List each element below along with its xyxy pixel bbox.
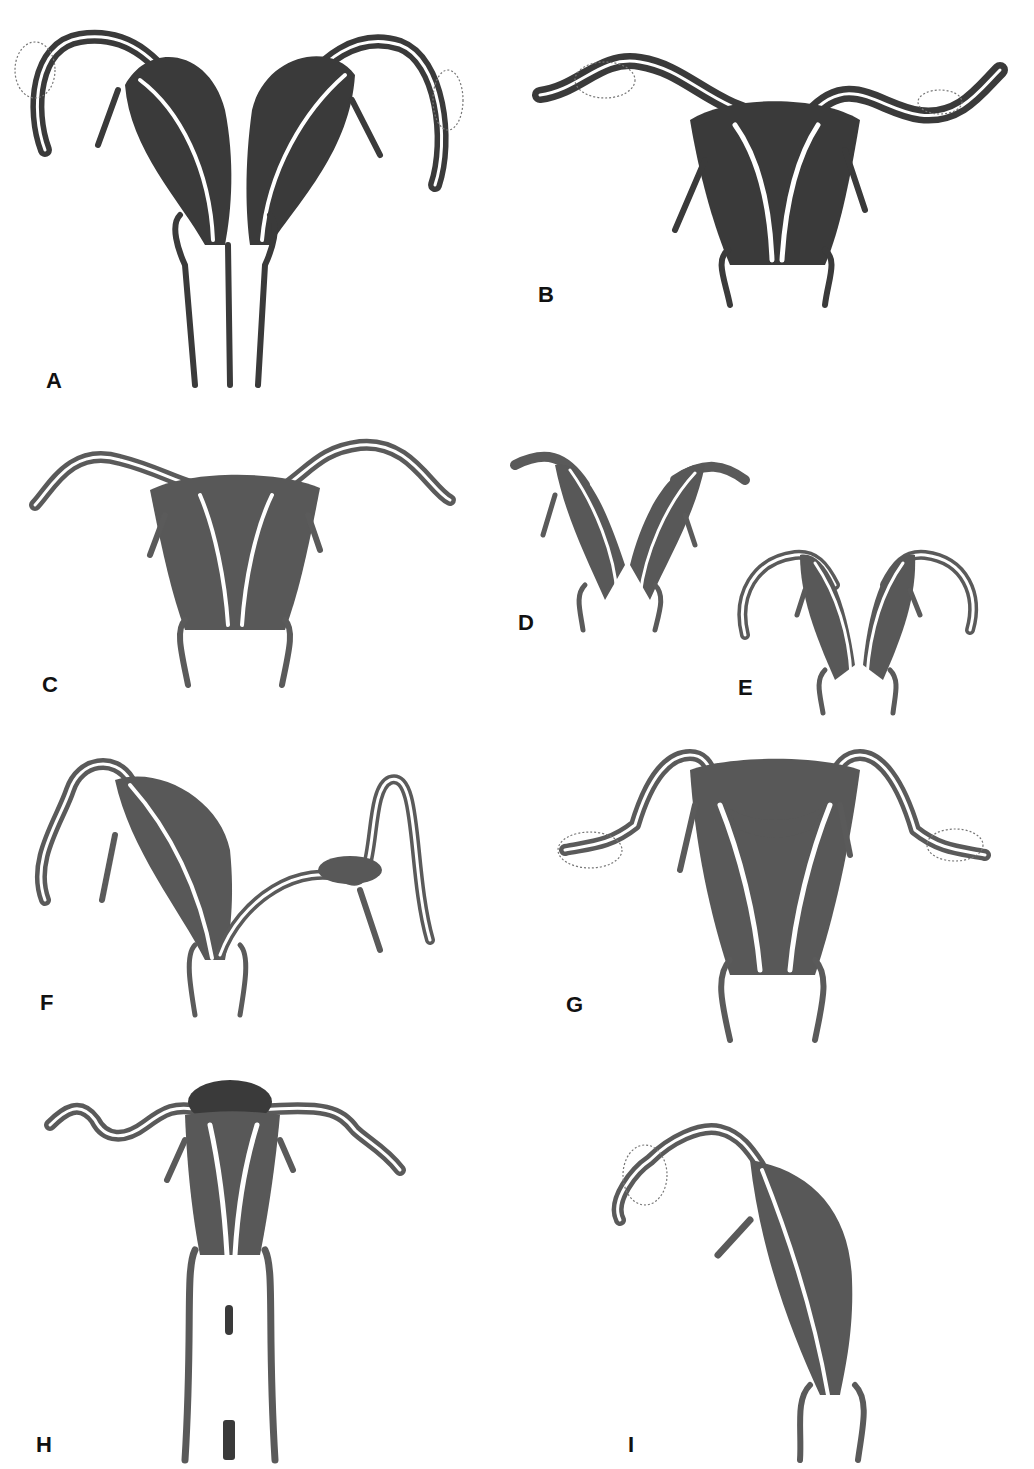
uterus-septate-vagina-drawing	[35, 1070, 425, 1465]
uterus-bicornuate-small-drawing	[725, 535, 995, 715]
uterus-unicornuate-drawing	[590, 1110, 910, 1465]
panel-g	[550, 735, 1000, 1045]
panel-label-b: B	[538, 282, 554, 308]
panel-d	[505, 445, 755, 635]
panel-h	[35, 1070, 425, 1465]
uterus-arcuate-drawing	[10, 430, 480, 690]
panel-f	[20, 740, 450, 1030]
panel-label-f: F	[40, 990, 53, 1016]
uterus-subseptate-drawing	[520, 40, 1030, 310]
panel-label-i: I	[628, 1432, 634, 1458]
panel-i	[590, 1110, 910, 1465]
panel-label-e: E	[738, 675, 753, 701]
panel-label-a: A	[46, 368, 62, 394]
panel-label-g: G	[566, 992, 583, 1018]
panel-label-h: H	[36, 1432, 52, 1458]
panel-a	[0, 0, 480, 400]
uterus-unicornuate-rudimentary-drawing	[20, 740, 450, 1030]
uterus-septate-drawing	[550, 735, 1000, 1045]
panel-e	[725, 535, 995, 715]
panel-c	[10, 430, 480, 690]
panel-b	[520, 40, 1030, 310]
uterus-bicornuate-drawing	[505, 445, 755, 635]
uterus-didelphys-drawing	[0, 0, 480, 400]
panel-label-d: D	[518, 610, 534, 636]
panel-label-c: C	[42, 672, 58, 698]
